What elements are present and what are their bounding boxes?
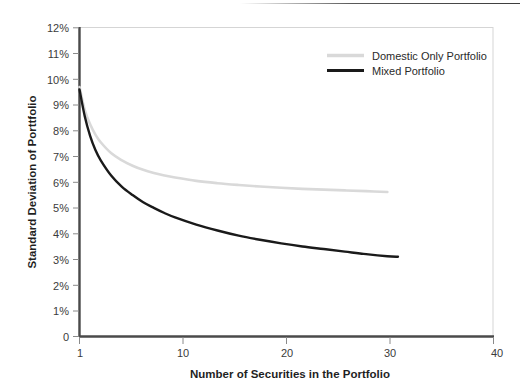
x-tick-label-30: 30: [384, 347, 396, 359]
legend-label-domestic-only-portfolio: Domestic Only Portfolio: [372, 50, 487, 62]
y-tick-label-11: 11%: [48, 48, 69, 60]
y-tick-label-10: 10%: [47, 74, 69, 86]
x-tick-label-40: 40: [491, 347, 503, 359]
y-tick-label-1: 1%: [53, 305, 69, 317]
x-axis-title: Number of Securities in the Portfolio: [190, 368, 390, 380]
y-tick-label-3: 3%: [53, 254, 69, 266]
x-tick-label-20: 20: [281, 347, 293, 359]
y-tick-label-4: 4%: [53, 228, 69, 240]
y-axis-ticks: [73, 28, 79, 337]
x-tick-label-1: 1: [77, 347, 83, 359]
y-tick-label-7: 7%: [53, 151, 69, 163]
legend-label-mixed-portfolio: Mixed Portfolio: [372, 65, 445, 77]
chart-svg: 12% 11% 10% 9% 8% 7% 6% 5% 4% 3% 2% 1% 0…: [0, 0, 520, 391]
y-tick-label-9: 9%: [53, 99, 69, 111]
y-axis-title: Standard Deviation of Porttfolio: [26, 95, 38, 268]
y-tick-label-2: 2%: [53, 280, 69, 292]
x-tick-label-10: 10: [177, 347, 189, 359]
x-axis-ticks: [80, 337, 494, 344]
page-edge-artifact: [240, 3, 520, 4]
chart-figure: 12% 11% 10% 9% 8% 7% 6% 5% 4% 3% 2% 1% 0…: [0, 0, 520, 391]
y-tick-label-6: 6%: [53, 177, 69, 189]
y-tick-label-0: 0: [63, 331, 69, 343]
y-tick-label-5: 5%: [53, 202, 69, 214]
y-tick-label-12: 12%: [47, 22, 69, 34]
y-tick-label-8: 8%: [53, 125, 69, 137]
